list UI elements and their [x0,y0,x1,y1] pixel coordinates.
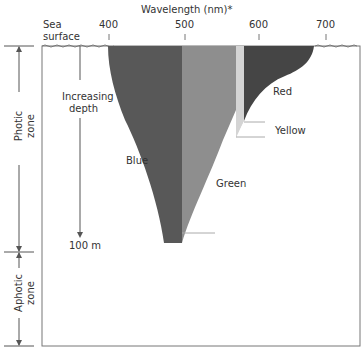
label-red: Red [273,86,292,98]
label-blue: Blue [126,155,148,167]
green-band [182,46,236,243]
sea-label-line2: surface [43,31,80,43]
blue-band [108,46,182,243]
aphotic-zone-label-line2: zone [25,270,37,316]
x-axis-title: Wavelength (nm)* [141,4,232,16]
axis-ticks [109,34,326,40]
depth-label-line2: depth [69,103,98,115]
label-green: Green [216,178,246,190]
light-penetration-diagram [0,0,361,354]
depth-label-line1: Increasing [62,91,114,103]
tick-700: 700 [316,19,335,31]
aphotic-zone-label-line1: Aphotic [13,270,25,316]
tick-600: 600 [249,19,268,31]
tick-400: 400 [99,19,118,31]
red-band [244,46,314,121]
photic-zone-label-line2: zone [25,103,37,149]
depth-value: 100 m [69,240,101,252]
label-yellow: Yellow [275,125,306,137]
sea-label-line1: Sea [43,19,62,31]
photic-zone-label-line1: Photic [13,103,25,149]
tick-500: 500 [175,19,194,31]
